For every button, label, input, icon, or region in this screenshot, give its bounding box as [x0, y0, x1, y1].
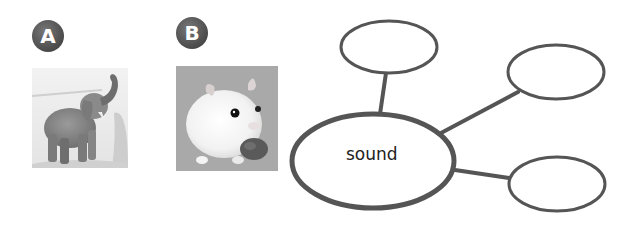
branch-oval-top[interactable] — [341, 21, 437, 73]
center-label: sound — [346, 144, 398, 164]
connector-right-top — [441, 92, 518, 133]
branch-oval-right-bottom[interactable] — [509, 157, 605, 211]
connector-top — [380, 73, 386, 114]
connector-right-bottom — [455, 170, 509, 178]
concept-map — [0, 0, 639, 230]
branch-oval-right-top[interactable] — [508, 45, 604, 99]
